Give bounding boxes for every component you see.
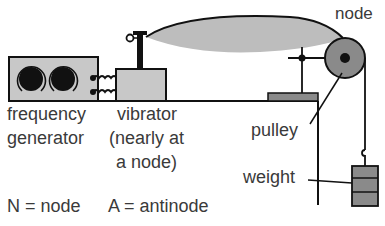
label-vibrator: vibrator [117,104,177,124]
standing-wave [146,16,343,52]
label-vibrator-note-2: a node) [116,152,177,172]
label-frequency: frequency [7,104,86,124]
label-pulley: pulley [251,120,298,140]
label-weight: weight [243,167,295,187]
frequency-generator [9,57,98,101]
pulley [325,38,365,150]
legend-antinode: A = antinode [108,196,209,216]
label-generator: generator [7,128,84,148]
label-node: node [335,4,373,24]
hanging-weight [352,150,378,206]
label-vibrator-note-1: (nearly at [109,128,184,148]
vibrator-post [127,31,148,70]
weight-leader [308,180,352,183]
legend-node: N = node [7,196,81,216]
vibrator-box [116,69,166,101]
